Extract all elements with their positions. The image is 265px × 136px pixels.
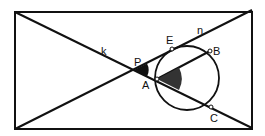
point-b bbox=[208, 49, 212, 53]
label-a: A bbox=[142, 79, 150, 91]
geometry-diagram: k n P A E B C bbox=[0, 0, 265, 136]
point-a bbox=[155, 77, 159, 81]
label-k: k bbox=[101, 45, 107, 57]
label-b: B bbox=[213, 45, 220, 57]
point-c bbox=[209, 105, 213, 109]
label-n: n bbox=[197, 24, 203, 36]
label-c: C bbox=[210, 112, 218, 124]
label-e: E bbox=[166, 34, 173, 46]
point-e bbox=[170, 47, 174, 51]
label-p: P bbox=[134, 56, 141, 68]
